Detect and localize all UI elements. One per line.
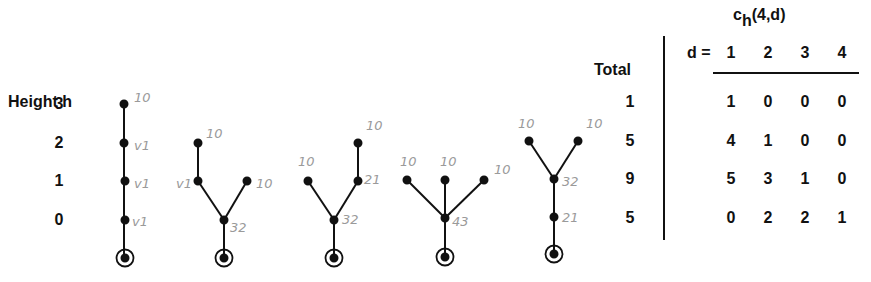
table-cell: 0 <box>832 170 852 188</box>
annotation: 10 <box>400 154 417 169</box>
column-header: 3 <box>795 44 815 62</box>
annotation: 10 <box>586 116 603 131</box>
d-label: d = <box>687 44 711 62</box>
tree-2 <box>195 140 251 267</box>
total-header: Total <box>594 61 631 79</box>
table-cell: 2 <box>795 209 815 227</box>
annotation: 10 <box>366 118 383 133</box>
annotation: 10 <box>440 154 457 169</box>
table-divider-vertical <box>663 36 665 240</box>
column-header: 2 <box>758 44 778 62</box>
tree-5 <box>526 138 582 263</box>
table-cell: 5 <box>721 170 741 188</box>
table-header-rule <box>713 72 859 74</box>
annotation: v1 <box>134 176 150 191</box>
table-cell: 1 <box>832 209 852 227</box>
table-cell: 0 <box>832 132 852 150</box>
table-cell: 2 <box>758 209 778 227</box>
annotation: 10 <box>134 90 151 105</box>
annotation: 10 <box>298 154 315 169</box>
table-cell: 3 <box>758 170 778 188</box>
table-cell: 1 <box>795 170 815 188</box>
annotation: 10 <box>518 116 535 131</box>
annotation: 32 <box>562 174 579 189</box>
total-cell: 9 <box>620 170 640 188</box>
annotation: v1 <box>134 138 150 153</box>
annotation: v1 <box>132 214 148 229</box>
annotation: v1 <box>176 176 192 191</box>
table-cell: 0 <box>832 93 852 111</box>
table-title: ch(4,d) <box>733 6 785 30</box>
table-cell: 4 <box>721 132 741 150</box>
table-cell: 0 <box>795 132 815 150</box>
table-cell: 1 <box>721 93 741 111</box>
total-cell: 5 <box>620 132 640 150</box>
total-cell: 5 <box>620 209 640 227</box>
column-header: 1 <box>721 44 741 62</box>
tree-1 <box>117 101 134 267</box>
column-header: 4 <box>832 44 852 62</box>
total-cell: 1 <box>620 93 640 111</box>
annotation: 21 <box>562 210 579 225</box>
table-cell: 0 <box>795 93 815 111</box>
tree-4 <box>404 177 488 266</box>
annotation: 32 <box>342 212 359 227</box>
annotation: 32 <box>230 220 247 235</box>
table-cell: 0 <box>758 93 778 111</box>
annotation: 43 <box>452 214 469 229</box>
rooted-trees-diagram: 10 v1 v1 v1 10 v1 10 32 10 10 21 32 10 1… <box>0 0 660 282</box>
annotation: 10 <box>494 162 511 177</box>
annotation: 10 <box>206 126 223 141</box>
table-cell: 0 <box>721 209 741 227</box>
annotation: 10 <box>256 176 273 191</box>
annotation: 21 <box>364 172 381 187</box>
table-cell: 1 <box>758 132 778 150</box>
